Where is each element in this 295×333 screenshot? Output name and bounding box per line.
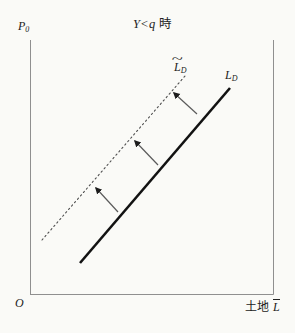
shifted-demand-label: ~LD [174, 61, 186, 75]
economics-diagram: P0 Y<q時 ~LD LD O 土地L [0, 0, 295, 333]
x-axis-label-kanji: 土地 [245, 300, 269, 314]
x-axis-label: 土地L [245, 299, 280, 313]
tilde-accent: ~ [172, 53, 183, 65]
demand-line [80, 88, 230, 263]
l-bar-letter: L [273, 299, 280, 313]
shifted-demand-subscript: D [181, 66, 187, 75]
y-axis-label: P0 [18, 20, 29, 34]
shift-arrow-3 [174, 93, 197, 114]
shift-arrow-2 [135, 141, 158, 165]
figure-title: Y<q時 [133, 18, 172, 31]
y-axis-label-subscript: 0 [25, 25, 29, 34]
shift-arrow-1 [96, 188, 118, 212]
shifted-demand-line [42, 76, 185, 240]
origin-label: O [15, 297, 24, 309]
demand-label: LD [225, 69, 237, 83]
less-than-sign: < [140, 17, 149, 31]
title-suffix-kanji: 時 [159, 17, 172, 31]
plot-svg [0, 0, 295, 333]
demand-subscript: D [232, 74, 238, 83]
